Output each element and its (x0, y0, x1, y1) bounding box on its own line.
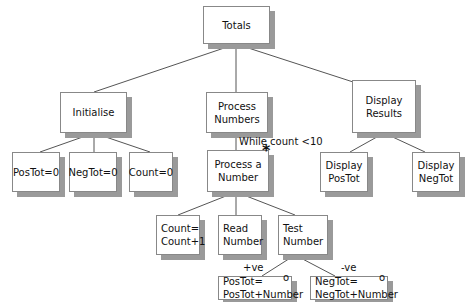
node-label: PosTot=0 (13, 166, 59, 179)
node-label: Display Results (366, 94, 403, 120)
node-count-zero: Count=0 (129, 152, 173, 192)
node-display-negtot: Display NegTot (412, 152, 460, 192)
node-process-a-number: Process a Number (207, 150, 269, 192)
node-display-results: Display Results (352, 80, 416, 133)
node-label: NegTot=0 (68, 166, 117, 179)
neg-branch-label: -ve (341, 262, 356, 273)
node-read-number: Read Number (218, 215, 262, 255)
node-process-numbers: Process Numbers (206, 92, 268, 133)
node-label: Totals (222, 19, 251, 32)
node-test-number: Test Number (278, 215, 328, 255)
node-label: Process Numbers (214, 100, 259, 126)
node-label: Test Number (283, 222, 323, 248)
selection-marker: o (379, 272, 385, 283)
node-label: Initialise (73, 106, 115, 119)
node-postot-zero: PosTot=0 (12, 152, 60, 192)
selection-marker: o (283, 272, 289, 283)
pos-branch-label: +ve (243, 262, 263, 273)
node-label: Count= Count+1 (161, 222, 205, 248)
node-negtot-zero: NegTot=0 (69, 152, 117, 192)
node-label: Count=0 (129, 166, 173, 179)
node-label: Display NegTot (418, 159, 455, 185)
node-negtot-add: NegTot= NegTot+Number (310, 276, 388, 300)
node-label: PosTot= PosTot+Number (223, 275, 303, 301)
node-totals: Totals (203, 6, 270, 44)
node-label: Read Number (223, 222, 263, 248)
node-initialise: Initialise (60, 92, 127, 133)
iteration-marker: * (262, 141, 270, 160)
node-label: NegTot= NegTot+Number (315, 275, 398, 301)
node-label: Process a Number (214, 158, 261, 184)
node-label: Display PosTot (326, 159, 363, 185)
node-count-increment: Count= Count+1 (156, 215, 200, 255)
loop-condition: While count <10 (239, 136, 323, 147)
node-postot-add: PosTot= PosTot+Number (218, 276, 292, 300)
node-display-postot: Display PosTot (320, 152, 368, 192)
